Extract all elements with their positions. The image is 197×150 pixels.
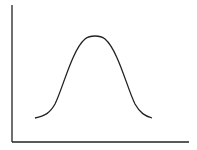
chart-svg (0, 0, 197, 150)
bell-curve (35, 36, 152, 118)
bell-curve-diagram (0, 0, 197, 150)
